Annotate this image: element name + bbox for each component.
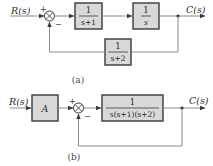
block-denominator: s <box>144 18 148 27</box>
feedback-block: 1 s+2 <box>105 39 131 65</box>
block-numerator: 1 <box>86 5 91 15</box>
input-label-r: R(s) <box>8 96 29 107</box>
block-denominator: s(s+1)(s+2) <box>110 110 155 119</box>
forward-block: 1 s(s+1)(s+2) <box>102 95 163 121</box>
output-label-c: C(s) <box>186 4 206 15</box>
block-denominator: s+2 <box>111 54 126 63</box>
diagram-b: R(s) A + − 1 s(s+1)(s+2) C(s) (b) <box>8 95 209 162</box>
sum-minus-sign: − <box>84 112 91 121</box>
sum-plus-sign: + <box>69 97 76 106</box>
caption-b: (b) <box>68 152 81 162</box>
gain-label: A <box>41 103 49 114</box>
forward-block-1: 1 s+1 <box>75 3 102 29</box>
output-label-c: C(s) <box>189 95 209 106</box>
caption-a: (a) <box>72 75 84 85</box>
gain-block: A <box>32 95 58 121</box>
block-numerator: 1 <box>115 41 120 51</box>
block-numerator: 1 <box>130 97 135 107</box>
diagram-a: R(s) + − 1 s+1 1 s C(s) <box>10 3 206 85</box>
sum-plus-sign: + <box>40 5 47 14</box>
input-label-r: R(s) <box>10 5 31 16</box>
block-numerator: 1 <box>143 5 148 15</box>
block-denominator: s+1 <box>81 18 96 27</box>
block-diagrams: R(s) + − 1 s+1 1 s C(s) <box>0 0 213 166</box>
forward-block-2: 1 s <box>133 3 159 29</box>
sum-minus-sign: − <box>55 20 62 29</box>
